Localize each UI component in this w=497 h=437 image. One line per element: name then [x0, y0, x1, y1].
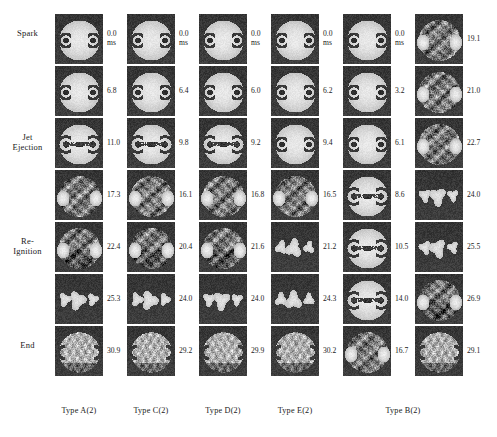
timestamp-value: 16.1 [179, 190, 192, 199]
figure-root: SparkJetEjectionRe-IgnitionEnd Type A(2)… [0, 0, 497, 437]
timestamp: 6.4 [179, 86, 199, 95]
timestamp: 3.2 [395, 86, 415, 95]
timestamp: 6.2 [323, 86, 343, 95]
timestamp: 8.6 [395, 190, 415, 199]
timestamp-value: 9.4 [323, 138, 333, 147]
frame-image [343, 66, 391, 116]
timestamp-value: 30.9 [107, 346, 120, 355]
frame-panel [271, 170, 319, 220]
stage-label-line: Ejection [0, 143, 55, 153]
timestamp-value: 21.0 [467, 86, 480, 95]
frame-image [127, 326, 175, 376]
frame-panel [127, 274, 175, 324]
frame-image [127, 14, 175, 64]
frame-image [343, 326, 391, 376]
timestamp-unit: ms [179, 38, 199, 47]
timestamp-value: 22.4 [107, 242, 120, 251]
timestamp: 22.7 [467, 138, 487, 147]
timestamp-value: 3.2 [395, 86, 405, 95]
timestamp-value: 6.8 [107, 86, 117, 95]
timestamp-unit: ms [323, 38, 343, 47]
timestamp-value: 10.5 [395, 242, 408, 251]
timestamp: 22.4 [107, 242, 127, 251]
timestamp: 24.0 [467, 190, 487, 199]
timestamp: 29.2 [179, 346, 199, 355]
timestamp-column-col-e: 0.0ms6.29.416.521.224.330.2 [323, 14, 343, 378]
frame-panel [415, 326, 463, 376]
frame-image [415, 222, 463, 272]
frame-panel [415, 118, 463, 168]
frame-panel [415, 14, 463, 64]
frame-panel [343, 222, 391, 272]
timestamp-column-col-a: 0.0ms6.811.017.322.425.330.9 [107, 14, 127, 378]
frame-image [199, 222, 247, 272]
frame-panel [343, 118, 391, 168]
timestamp-value: 24.0 [251, 294, 264, 303]
frame-image [199, 118, 247, 168]
frame-image [343, 222, 391, 272]
timestamp: 16.5 [323, 190, 343, 199]
frame-panel [415, 274, 463, 324]
frame-image [271, 222, 319, 272]
frame-panel [415, 222, 463, 272]
frame-panel [343, 66, 391, 116]
timestamp-value: 24.0 [179, 294, 192, 303]
column-caption: Type E(2) [257, 406, 333, 415]
frame-panel [55, 222, 103, 272]
column-caption: Type A(2) [41, 406, 117, 415]
timestamp-unit: ms [395, 38, 415, 47]
timestamp-value: 9.2 [251, 138, 261, 147]
frame-image [415, 170, 463, 220]
timestamp-unit: ms [251, 38, 271, 47]
frame-image [127, 66, 175, 116]
stage-label-line: End [0, 341, 55, 351]
timestamp-value: 22.7 [467, 138, 480, 147]
frame-image [127, 170, 175, 220]
frame-image [127, 222, 175, 272]
timestamp-value: 29.9 [251, 346, 264, 355]
column-caption: Type D(2) [185, 406, 261, 415]
column-caption: Type B(2) [329, 406, 477, 415]
timestamp-column-col-c: 0.0ms6.49.816.120.424.029.2 [179, 14, 199, 378]
timestamp: 16.7 [395, 346, 415, 355]
frame-image [415, 14, 463, 64]
timestamp-value: 29.2 [179, 346, 192, 355]
timestamp-value: 21.2 [323, 242, 336, 251]
timestamp: 0.0ms [251, 29, 271, 48]
timestamp-column-col-b1: 0.0ms3.26.18.610.514.016.7 [395, 14, 415, 378]
timestamp-value: 24.0 [467, 190, 480, 199]
column-caption-row: Type A(2)Type C(2)Type D(2)Type E(2)Type… [0, 406, 497, 426]
timestamp-value: 19.1 [467, 34, 480, 43]
timestamp-value: 11.0 [107, 138, 120, 147]
frame-image [343, 170, 391, 220]
timestamp-value: 16.8 [251, 190, 264, 199]
frame-panel [343, 170, 391, 220]
frame-panel [55, 170, 103, 220]
timestamp-column-col-b2: 19.121.022.724.025.526.929.1 [467, 14, 487, 378]
frame-image [199, 14, 247, 64]
timestamp: 16.1 [179, 190, 199, 199]
frame-image [55, 170, 103, 220]
timestamp: 21.2 [323, 242, 343, 251]
frame-image [271, 14, 319, 64]
frame-image [271, 118, 319, 168]
frame-image [127, 274, 175, 324]
frame-panel [271, 118, 319, 168]
frame-image [199, 274, 247, 324]
timestamp-value: 26.9 [467, 294, 480, 303]
timestamp: 24.3 [323, 294, 343, 303]
frame-image [271, 274, 319, 324]
timestamp: 10.5 [395, 242, 415, 251]
frame-panel [271, 222, 319, 272]
timestamp-value: 14.0 [395, 294, 408, 303]
frame-panel [199, 222, 247, 272]
frame-panel [55, 326, 103, 376]
frame-panel [343, 274, 391, 324]
frame-panel [55, 118, 103, 168]
timestamp: 9.8 [179, 138, 199, 147]
frame-panel [127, 326, 175, 376]
frame-image [55, 118, 103, 168]
timestamp-value: 0.0 [251, 29, 261, 38]
timestamp: 19.1 [467, 34, 487, 43]
timestamp-column-col-d: 0.0ms6.09.216.821.624.029.9 [251, 14, 271, 378]
